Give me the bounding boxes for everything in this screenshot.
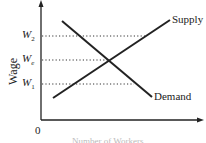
w1-subscript: 1 — [31, 83, 35, 91]
y-axis-label: Wage — [6, 57, 21, 87]
origin-label: 0 — [35, 124, 41, 136]
y-axis-arrow-icon — [39, 0, 44, 7]
we-subscript: e — [31, 59, 34, 67]
demand-label: Demand — [154, 90, 191, 102]
w2-tick-label: W2 — [22, 28, 35, 43]
w2-label: W — [22, 28, 31, 40]
x-axis-label: Number of Workers — [72, 136, 144, 143]
we-label: W — [22, 52, 31, 64]
supply-curve — [53, 20, 170, 98]
w1-label: W — [22, 76, 31, 88]
w1-tick-label: W1 — [22, 76, 35, 91]
demand-curve — [62, 21, 152, 97]
w2-subscript: 2 — [31, 35, 35, 43]
we-tick-label: We — [22, 52, 34, 67]
x-axis-arrow-icon — [197, 118, 204, 123]
supply-label: Supply — [172, 13, 203, 25]
